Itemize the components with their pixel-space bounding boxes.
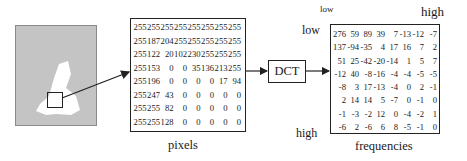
- axis-top-low-label: low: [320, 4, 334, 14]
- matrix-row: 137-94-354171672: [333, 41, 437, 54]
- matrix-cell: 0: [228, 116, 242, 130]
- matrix-cell: 0: [174, 102, 188, 116]
- matrix-cell: 0: [174, 116, 188, 130]
- matrix-cell: 255: [147, 102, 161, 116]
- matrix-cell: 255: [133, 75, 147, 89]
- matrix-cell: 51: [333, 55, 346, 68]
- matrix-row: -8317-13-402-1: [333, 81, 437, 94]
- matrix-cell: 213: [214, 62, 228, 76]
- matrix-cell: 0: [214, 89, 228, 103]
- white-shape: [16, 26, 98, 127]
- matrix-cell: 0: [398, 94, 411, 107]
- frequencies-caption: frequencies: [355, 139, 413, 154]
- matrix-cell: 153: [147, 62, 161, 76]
- matrix-row: 25519600001794: [133, 75, 241, 89]
- frequency-matrix: 2765989397-13-12-7137-94-3541716725125-4…: [330, 24, 440, 134]
- matrix-cell: 122: [147, 48, 161, 62]
- matrix-row: -1240-8-16-4-4-5-5: [333, 68, 437, 81]
- matrix-cell: 14: [346, 94, 359, 107]
- matrix-cell: -4: [398, 68, 411, 81]
- matrix-cell: -12: [411, 28, 424, 41]
- matrix-cell: -14: [385, 55, 398, 68]
- matrix-cell: -8: [359, 68, 372, 81]
- matrix-cell: 0: [201, 75, 215, 89]
- matrix-cell: 82: [160, 102, 174, 116]
- matrix-cell: 5: [372, 94, 385, 107]
- matrix-cell: -35: [359, 41, 372, 54]
- matrix-cell: -12: [333, 68, 346, 81]
- matrix-cell: -3: [346, 108, 359, 121]
- matrix-cell: 204: [160, 35, 174, 49]
- matrix-row: 2765989397-13-12-7: [333, 28, 437, 41]
- matrix-cell: 8: [385, 121, 398, 134]
- matrix-cell: 59: [346, 28, 359, 41]
- matrix-cell: -1: [411, 94, 424, 107]
- matrix-cell: 255: [174, 21, 188, 35]
- matrix-cell: 2: [346, 121, 359, 134]
- matrix-cell: 187: [147, 35, 161, 49]
- matrix-cell: 7: [411, 41, 424, 54]
- matrix-cell: 255: [133, 116, 147, 130]
- matrix-cell: 255: [228, 35, 242, 49]
- matrix-cell: -7: [424, 28, 437, 41]
- matrix-cell: 7: [385, 28, 398, 41]
- matrix-cell: -6: [359, 121, 372, 134]
- matrix-cell: 247: [147, 89, 161, 103]
- matrix-row: 255187204255255255255255: [133, 35, 241, 49]
- matrix-cell: 5: [411, 55, 424, 68]
- matrix-cell: 2: [333, 94, 346, 107]
- matrix-cell: 40: [346, 68, 359, 81]
- matrix-cell: 255: [187, 21, 201, 35]
- matrix-cell: 0: [160, 75, 174, 89]
- matrix-cell: 0: [174, 89, 188, 103]
- matrix-cell: 0: [385, 108, 398, 121]
- matrix-cell: -42: [359, 55, 372, 68]
- pixels-caption: pixels: [168, 138, 198, 153]
- matrix-cell: 0: [187, 102, 201, 116]
- matrix-cell: 0: [201, 89, 215, 103]
- matrix-cell: -1: [333, 108, 346, 121]
- matrix-row: 2552474300000: [133, 89, 241, 103]
- matrix-cell: -7: [385, 94, 398, 107]
- matrix-cell: 1: [398, 55, 411, 68]
- matrix-cell: 0: [228, 102, 242, 116]
- matrix-cell: 16: [398, 41, 411, 54]
- matrix-cell: 4: [372, 41, 385, 54]
- matrix-cell: 255: [133, 48, 147, 62]
- matrix-cell: 196: [147, 75, 161, 89]
- matrix-cell: 255: [201, 21, 215, 35]
- matrix-cell: 12: [372, 108, 385, 121]
- matrix-cell: 255: [133, 35, 147, 49]
- matrix-cell: 14: [359, 94, 372, 107]
- matrix-cell: 255: [133, 102, 147, 116]
- matrix-row: 2552558200000: [133, 102, 241, 116]
- matrix-cell: 35: [187, 62, 201, 76]
- matrix-cell: -4: [385, 81, 398, 94]
- matrix-row: 25525512800000: [133, 116, 241, 130]
- matrix-cell: 0: [214, 116, 228, 130]
- matrix-cell: 255: [133, 89, 147, 103]
- matrix-cell: 255: [228, 62, 242, 76]
- matrix-row: 25512220102230255255255: [133, 48, 241, 62]
- matrix-cell: 255: [214, 21, 228, 35]
- matrix-cell: 43: [160, 89, 174, 103]
- matrix-cell: 0: [424, 121, 437, 134]
- matrix-cell: 0: [187, 116, 201, 130]
- matrix-cell: 0: [228, 89, 242, 103]
- axis-left-low-label: low: [302, 23, 320, 38]
- matrix-cell: -4: [398, 108, 411, 121]
- matrix-cell: -16: [372, 68, 385, 81]
- matrix-cell: 255: [214, 35, 228, 49]
- matrix-cell: 39: [372, 28, 385, 41]
- matrix-cell: 2: [411, 81, 424, 94]
- matrix-cell: 0: [201, 102, 215, 116]
- matrix-cell: 102: [174, 48, 188, 62]
- matrix-cell: 255: [133, 21, 147, 35]
- matrix-cell: 0: [424, 94, 437, 107]
- matrix-cell: 6: [372, 121, 385, 134]
- matrix-cell: 255: [228, 21, 242, 35]
- matrix-cell: -1: [424, 81, 437, 94]
- matrix-cell: -5: [398, 121, 411, 134]
- matrix-cell: 17: [214, 75, 228, 89]
- matrix-row: 5125-42-20-14157: [333, 55, 437, 68]
